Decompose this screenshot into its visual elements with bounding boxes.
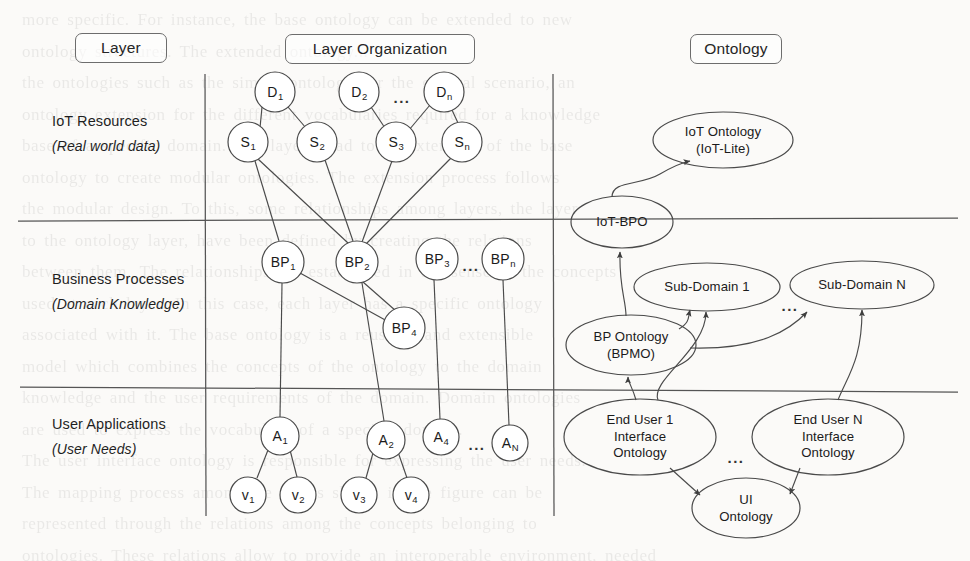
edge-bp3-a4 bbox=[434, 280, 440, 419]
vertical-divider-ontology bbox=[553, 74, 554, 516]
ellipsis-bp-row: ... bbox=[462, 257, 479, 274]
vertical-divider-layer bbox=[205, 74, 206, 516]
edge-a1-v1 bbox=[257, 450, 268, 478]
edge-s2-bp2 bbox=[325, 160, 353, 241]
node-circle-A2 bbox=[367, 421, 405, 459]
layer-subtitle-iot-resources: (Real world data) bbox=[52, 138, 160, 154]
ellipsis-d-row: ... bbox=[393, 89, 410, 106]
edge-enduser1-to-bpontology bbox=[628, 377, 636, 400]
ellipsis-sub-domain: ... bbox=[781, 297, 798, 314]
edge-a2-v4 bbox=[398, 452, 407, 478]
edge-s1-bp2 bbox=[258, 159, 348, 243]
node-circle-A4 bbox=[423, 419, 459, 455]
ellipsis-end-user: ... bbox=[727, 449, 744, 466]
edge-bpn-an bbox=[503, 280, 509, 425]
edge-enduserN-to-subdomainN bbox=[838, 310, 862, 400]
header-ontology: Ontology bbox=[690, 34, 782, 64]
node-circle-D2 bbox=[339, 72, 379, 112]
layer-label-business-processes: Business Processes (Domain Knowledge) bbox=[52, 271, 185, 312]
edge-bpontology-to-iotbpo bbox=[620, 252, 626, 316]
header-layer-organization: Layer Organization bbox=[285, 34, 475, 64]
edge-d2-s3 bbox=[371, 107, 385, 128]
edge-bp2-a2 bbox=[362, 283, 384, 421]
node-circle-D1 bbox=[255, 72, 295, 112]
divider-business-user bbox=[20, 387, 958, 392]
edge-bpontology-to-subdomainN bbox=[690, 312, 807, 348]
node-circle-BP3 bbox=[416, 238, 458, 280]
figure-canvas: more specific. For instance, the base on… bbox=[0, 0, 970, 561]
edge-bp2-bp4 bbox=[363, 282, 396, 311]
edge-dn-sn bbox=[452, 110, 458, 123]
ellipse-sub-domain-n bbox=[790, 261, 934, 309]
header-layer: Layer bbox=[75, 33, 167, 63]
ellipse-bp-ontology bbox=[566, 315, 696, 375]
node-circle-S1 bbox=[228, 122, 268, 162]
layer-subtitle-user-applications: (User Needs) bbox=[52, 441, 166, 457]
node-circle-V3 bbox=[341, 477, 377, 513]
header-layer-label: Layer bbox=[101, 39, 141, 57]
edge-iotbpo-to-iotontology bbox=[612, 161, 690, 197]
edge-a2-v3 bbox=[366, 453, 373, 478]
edge-sn-bp2 bbox=[366, 157, 452, 244]
ontology-edges bbox=[612, 161, 862, 495]
node-circle-BPn bbox=[482, 238, 524, 280]
divider-iot-business bbox=[18, 218, 958, 221]
header-ontology-label: Ontology bbox=[704, 40, 768, 58]
edge-s1-bp1 bbox=[255, 161, 279, 241]
edge-dn-s3 bbox=[409, 105, 430, 130]
ontology-node-ellipses bbox=[564, 112, 934, 538]
ellipsis-a-row: ... bbox=[468, 436, 485, 453]
layer-title-user-applications: User Applications bbox=[52, 416, 166, 432]
ellipse-iot-bpo bbox=[571, 196, 673, 248]
layer-label-user-applications: User Applications (User Needs) bbox=[52, 416, 166, 457]
edge-enduser1-to-uiontology bbox=[670, 468, 700, 495]
layer-subtitle-business-processes: (Domain Knowledge) bbox=[52, 296, 185, 312]
edge-a1-v2 bbox=[290, 450, 297, 477]
node-circle-S2 bbox=[297, 122, 337, 162]
node-circle-V4 bbox=[393, 477, 429, 513]
edge-bp1-bp4 bbox=[300, 273, 387, 321]
node-circle-S3 bbox=[376, 122, 416, 162]
layer-label-iot-resources: IoT Resources (Real world data) bbox=[52, 113, 160, 154]
node-circle-V1 bbox=[230, 477, 266, 513]
node-circle-V2 bbox=[280, 477, 316, 513]
node-circle-BP1 bbox=[262, 241, 304, 283]
node-circle-AN bbox=[492, 425, 528, 461]
edge-bp1-a1 bbox=[280, 283, 282, 417]
node-circle-Sn bbox=[442, 122, 482, 162]
ellipse-end-user-1-ontology bbox=[564, 399, 716, 475]
ellipse-sub-domain-1 bbox=[634, 263, 780, 311]
node-circle-BP2 bbox=[336, 241, 378, 283]
ellipse-ui-ontology bbox=[692, 478, 800, 538]
node-circle-A1 bbox=[261, 417, 299, 455]
layer-title-iot-resources: IoT Resources bbox=[52, 113, 147, 129]
node-circle-Dn bbox=[424, 72, 464, 112]
header-layer-organization-label: Layer Organization bbox=[313, 40, 448, 58]
edge-d1-s2 bbox=[288, 107, 306, 128]
edge-enduser1-to-subdomain1 bbox=[657, 312, 706, 400]
ellipse-end-user-n-ontology bbox=[752, 399, 904, 475]
ellipse-iot-ontology bbox=[653, 112, 793, 168]
node-circle-BP4 bbox=[383, 307, 425, 349]
layer-title-business-processes: Business Processes bbox=[52, 271, 184, 287]
edge-s3-bp2 bbox=[362, 161, 392, 242]
edge-d1-s1 bbox=[260, 107, 262, 128]
